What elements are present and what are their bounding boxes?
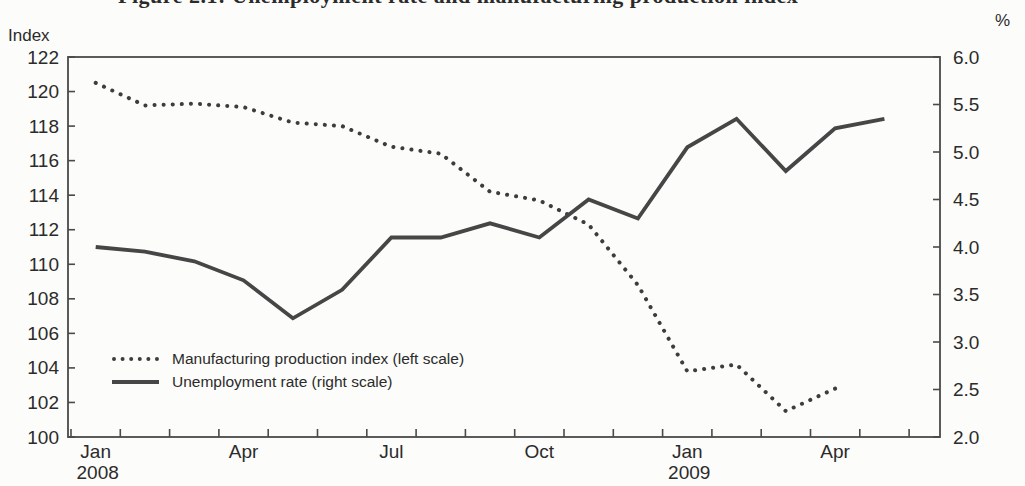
legend-item-production: Manufacturing production index (left sca…: [112, 347, 464, 370]
legend-label-production: Manufacturing production index (left sca…: [172, 350, 464, 368]
figure-page: Figure 2.1: Unemployment rate and manufa…: [0, 0, 1025, 486]
svg-text:Oct: Oct: [525, 441, 555, 462]
svg-text:5.0: 5.0: [953, 142, 979, 163]
legend-label-unemployment: Unemployment rate (right scale): [172, 373, 393, 391]
svg-text:108: 108: [27, 288, 59, 309]
svg-text:2.0: 2.0: [953, 427, 979, 448]
svg-text:5.5: 5.5: [953, 94, 979, 115]
svg-text:Jan: Jan: [672, 441, 703, 462]
svg-text:6.0: 6.0: [953, 47, 979, 68]
solid-line-swatch: [112, 380, 159, 384]
svg-text:Jul: Jul: [379, 441, 403, 462]
svg-text:112: 112: [29, 219, 59, 240]
svg-text:2.5: 2.5: [953, 379, 979, 400]
svg-text:102: 102: [27, 392, 59, 413]
svg-text:114: 114: [29, 185, 60, 206]
svg-text:120: 120: [27, 81, 59, 102]
legend-item-unemployment: Unemployment rate (right scale): [112, 370, 464, 393]
dual-axis-line-chart: 1221201181161141121101081061041021006.05…: [0, 0, 1025, 486]
svg-text:Apr: Apr: [229, 441, 259, 462]
svg-text:4.0: 4.0: [953, 237, 979, 258]
svg-text:2008: 2008: [77, 462, 119, 483]
svg-text:2009: 2009: [668, 462, 710, 483]
series-unemployment-rate: [96, 119, 885, 318]
svg-text:116: 116: [29, 150, 59, 171]
dotted-line-swatch: [112, 357, 159, 361]
chart-legend: Manufacturing production index (left sca…: [112, 347, 464, 393]
svg-text:Apr: Apr: [820, 441, 850, 462]
svg-text:100: 100: [27, 427, 59, 448]
svg-text:122: 122: [27, 47, 59, 68]
svg-text:118: 118: [29, 116, 59, 137]
svg-text:104: 104: [27, 357, 59, 378]
svg-text:3.5: 3.5: [953, 284, 979, 305]
svg-text:110: 110: [29, 254, 59, 275]
svg-text:3.0: 3.0: [953, 332, 979, 353]
svg-text:106: 106: [27, 323, 59, 344]
svg-text:Jan: Jan: [80, 441, 111, 462]
svg-text:4.5: 4.5: [953, 189, 979, 210]
